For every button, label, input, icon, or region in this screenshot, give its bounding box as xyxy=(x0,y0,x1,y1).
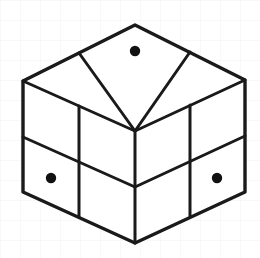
dot-top-face xyxy=(130,46,140,56)
dot-right-face xyxy=(212,173,222,183)
dot-left-face xyxy=(46,173,56,183)
figure-canvas xyxy=(0,0,260,258)
isometric-cube xyxy=(0,0,260,258)
